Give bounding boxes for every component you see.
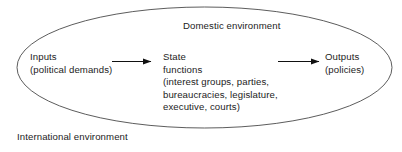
node-state-line-3: (interest groups, parties, <box>163 76 278 89</box>
node-state-line-1: State <box>163 51 278 64</box>
node-outputs: Outputs (policies) <box>325 51 364 76</box>
node-state-line-2: functions <box>163 64 278 77</box>
node-inputs-line-2: (political demands) <box>30 64 112 77</box>
node-state-functions: State functions (interest groups, partie… <box>163 51 278 114</box>
node-outputs-line-2: (policies) <box>325 64 364 77</box>
node-inputs: Inputs (political demands) <box>30 51 112 76</box>
node-outputs-line-1: Outputs <box>325 51 364 64</box>
node-state-line-4: bureaucracies, legislature, <box>163 89 278 102</box>
international-environment-label: International environment <box>17 131 128 144</box>
node-inputs-line-1: Inputs <box>30 51 112 64</box>
domestic-environment-title: Domestic environment <box>183 20 280 33</box>
node-state-line-5: executive, courts) <box>163 101 278 114</box>
diagram-canvas: Domestic environment Inputs (political d… <box>0 0 402 152</box>
